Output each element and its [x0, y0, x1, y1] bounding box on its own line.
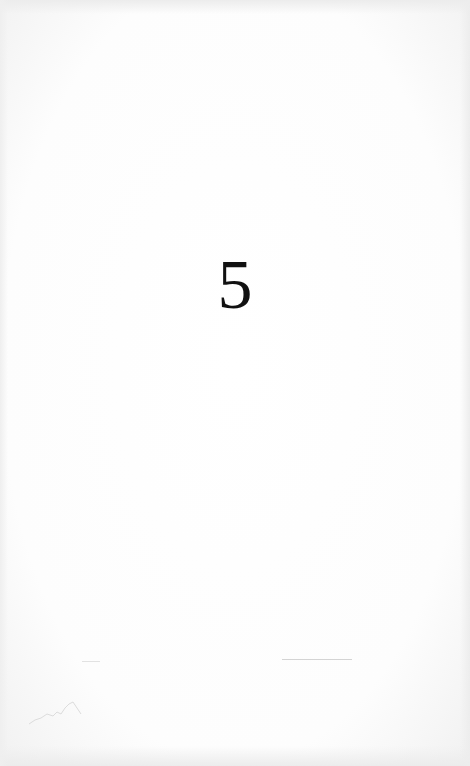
page-edge-shadow-top: [0, 0, 470, 14]
page-edge-shadow-right: [460, 0, 470, 766]
book-page: 5: [0, 0, 470, 766]
scan-artifact-squiggle: [25, 700, 95, 730]
chapter-number: 5: [0, 250, 470, 320]
scan-bleed-through-line: [282, 659, 352, 660]
scan-bleed-through-mark: [82, 661, 100, 662]
page-edge-shadow-bottom: [0, 746, 470, 766]
page-edge-shadow-left: [0, 0, 8, 766]
